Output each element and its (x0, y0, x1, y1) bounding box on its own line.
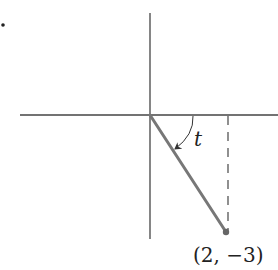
terminal-side (150, 115, 226, 232)
point-label: (2, −3) (193, 243, 264, 267)
point-marker (223, 229, 229, 235)
angle-arc-arrow (175, 116, 193, 149)
angle-label: t (194, 127, 203, 151)
angle-diagram: t (2, −3) (0, 0, 278, 270)
list-marker-dot (1, 23, 5, 27)
